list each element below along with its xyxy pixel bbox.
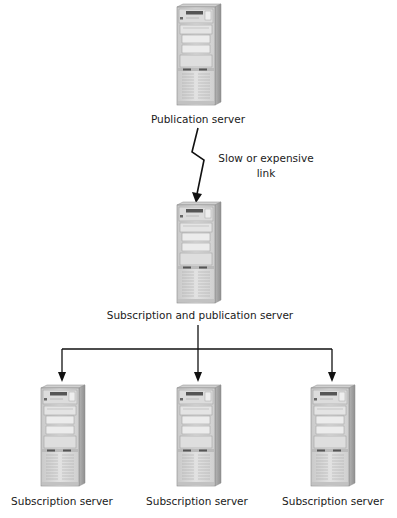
server-tower-icon: [177, 202, 221, 303]
link-label-line1: Slow or expensive: [218, 152, 313, 164]
replication-diagram: Publication server Slow or expensive lin…: [0, 0, 397, 518]
subscription-server-node-2: Subscription server: [146, 385, 248, 507]
arrowhead-icon: [328, 372, 336, 382]
publication-server-label: Publication server: [151, 113, 246, 125]
arrowhead-icon: [192, 192, 202, 203]
server-tower-icon: [177, 4, 221, 105]
distribution-edges: [62, 325, 332, 374]
publication-server-node: Publication server: [151, 4, 246, 125]
server-tower-icon: [177, 385, 221, 486]
subscription-server-label: Subscription server: [282, 495, 384, 507]
subscription-server-label: Subscription server: [146, 495, 248, 507]
server-tower-icon: [311, 385, 355, 486]
subscription-server-node-3: Subscription server: [282, 385, 384, 507]
subscription-server-label: Subscription server: [11, 495, 113, 507]
sub-pub-server-node: Subscription and publication server: [107, 202, 294, 321]
slow-link-edge: Slow or expensive link: [192, 128, 314, 203]
lightning-bolt-icon: [192, 128, 204, 194]
arrowhead-icon: [58, 372, 66, 382]
server-tower-icon: [41, 385, 85, 486]
sub-pub-server-label: Subscription and publication server: [107, 309, 294, 321]
subscription-server-node-1: Subscription server: [11, 385, 113, 507]
arrowhead-icon: [194, 372, 202, 382]
link-label-line2: link: [257, 167, 276, 179]
